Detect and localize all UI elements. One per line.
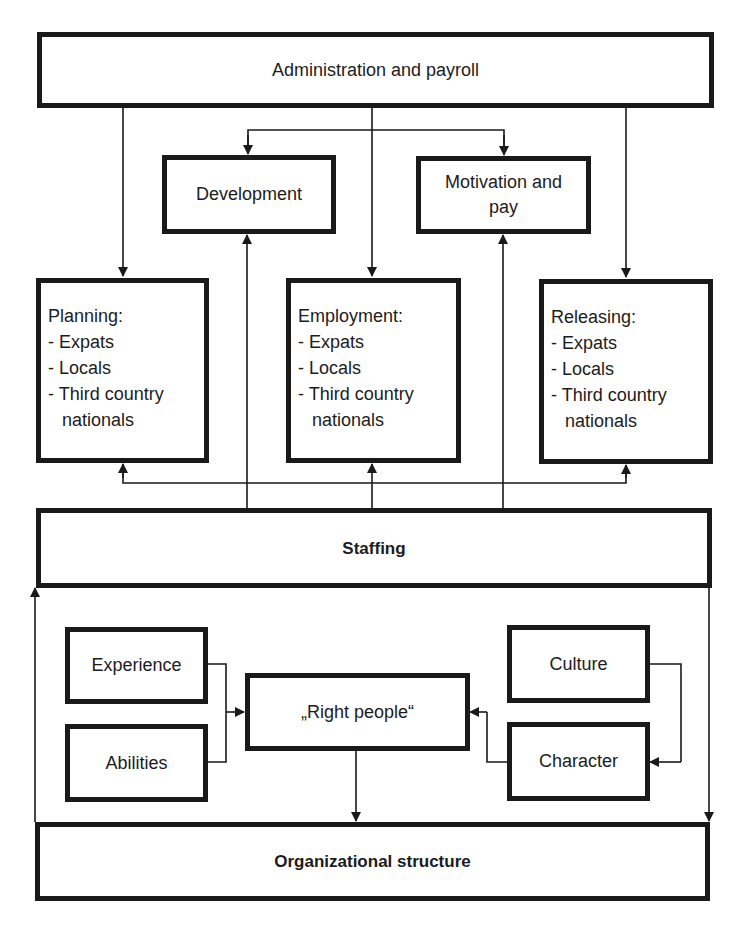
experience-box: Experience (65, 627, 208, 704)
experience-label: Experience (91, 653, 181, 678)
organizational-structure-box: Organizational structure (35, 822, 710, 901)
abilities-box: Abilities (65, 724, 208, 802)
releasing-item-third-country: - Third country (551, 382, 667, 408)
character-label: Character (539, 749, 618, 774)
culture-label: Culture (549, 652, 607, 677)
releasing-item-nationals: nationals (551, 408, 637, 434)
right-people-box: „Right people“ (245, 673, 470, 751)
organizational-structure-label: Organizational structure (274, 849, 470, 874)
culture-box: Culture (507, 625, 650, 703)
administration-payroll-label: Administration and payroll (272, 58, 479, 83)
staffing-box: Staffing (36, 508, 712, 588)
motivation-label-line1: Motivation and (445, 170, 562, 195)
motivation-label-line2: pay (445, 195, 562, 220)
releasing-item-locals: - Locals (551, 356, 614, 382)
planning-item-third-country: - Third country (48, 381, 164, 407)
releasing-box: Releasing: - Expats - Locals - Third cou… (539, 279, 713, 464)
employment-item-nationals: nationals (298, 407, 384, 433)
right-people-label: „Right people“ (301, 700, 414, 725)
employment-item-locals: - Locals (298, 355, 361, 381)
employment-item-expats: - Expats (298, 329, 364, 355)
employment-item-third-country: - Third country (298, 381, 414, 407)
planning-box: Planning: - Expats - Locals - Third coun… (36, 278, 209, 463)
employment-title: Employment: (298, 303, 403, 329)
character-box: Character (507, 722, 650, 801)
abilities-label: Abilities (105, 751, 167, 776)
releasing-title: Releasing: (551, 304, 636, 330)
planning-item-nationals: nationals (48, 407, 134, 433)
planning-item-expats: - Expats (48, 329, 114, 355)
planning-title: Planning: (48, 303, 123, 329)
planning-item-locals: - Locals (48, 355, 111, 381)
development-label: Development (196, 182, 302, 207)
development-box: Development (162, 155, 336, 234)
administration-payroll-box: Administration and payroll (37, 32, 714, 108)
releasing-item-expats: - Expats (551, 330, 617, 356)
staffing-label: Staffing (342, 536, 405, 561)
employment-box: Employment: - Expats - Locals - Third co… (286, 278, 461, 463)
motivation-pay-box: Motivation and pay (416, 156, 591, 234)
